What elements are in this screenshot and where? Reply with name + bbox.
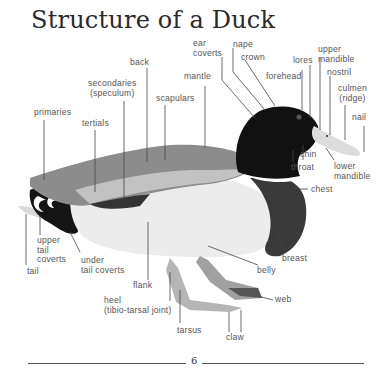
label-lower-mandible: lower mandible <box>334 162 370 181</box>
label-line: coverts <box>37 255 66 265</box>
label-lores: lores <box>293 56 313 66</box>
page-number: 6 <box>191 355 197 366</box>
label-line: (ridge) <box>338 94 367 104</box>
label-belly: belly <box>257 266 276 276</box>
label-primaries: primaries <box>34 108 71 118</box>
footer-rule-right <box>202 363 364 364</box>
label-line: mandible <box>318 55 354 65</box>
eye <box>296 114 301 119</box>
label-scapulars: scapulars <box>156 94 195 104</box>
label-nape: nape <box>233 40 253 50</box>
label-line: (speculum) <box>88 89 137 99</box>
label-claw: claw <box>226 333 244 343</box>
label-back: back <box>130 58 149 68</box>
label-heel: heel (tibio-tarsal joint) <box>104 296 172 315</box>
label-upper-mandible: upper mandible <box>318 45 354 64</box>
label-crown: crown <box>241 53 265 63</box>
label-forehead: forehead <box>266 72 302 82</box>
label-tarsus: tarsus <box>177 326 202 336</box>
label-chest: chest <box>311 185 333 195</box>
label-upper-tail-coverts: upper tail coverts <box>37 236 66 265</box>
label-line: mandible <box>334 172 370 182</box>
label-culmen: culmen (ridge) <box>338 84 367 103</box>
label-nail: nail <box>352 113 366 123</box>
label-mantle: mantle <box>184 72 211 82</box>
label-secondaries: secondaries (speculum) <box>88 79 137 98</box>
label-tail: tail <box>27 267 39 277</box>
label-line: tail coverts <box>81 266 124 276</box>
label-web: web <box>275 295 291 305</box>
label-ear-coverts: ear coverts <box>193 39 222 58</box>
label-chin: chin <box>300 150 317 160</box>
footer-rule-left <box>28 363 186 364</box>
label-nostril: nostril <box>327 68 351 78</box>
label-throat: throat <box>291 163 314 173</box>
label-breast: breast <box>282 254 307 264</box>
label-line: (tibio-tarsal joint) <box>104 306 172 316</box>
label-line: coverts <box>193 49 222 59</box>
label-tertials: tertials <box>82 119 109 129</box>
bill <box>312 126 360 156</box>
label-under-tail-coverts: under tail coverts <box>81 256 124 275</box>
label-flank: flank <box>133 281 152 291</box>
